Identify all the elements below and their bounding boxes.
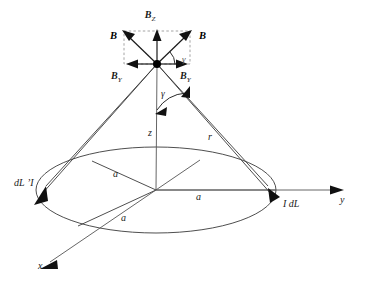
- x-axis-line: [50, 160, 200, 262]
- cone-line-right-inner: [157, 64, 268, 186]
- radius-line-lower-left: [78, 190, 156, 226]
- z-axis-label: z: [147, 127, 152, 138]
- radius-label-upper-left: a: [113, 168, 118, 179]
- radius-label-right: a: [196, 191, 201, 202]
- gamma-upper-arc: [170, 52, 175, 64]
- cone-line-right-r: [157, 64, 272, 195]
- cone-line-left-inner: [46, 64, 157, 186]
- by-left-label: BY: [110, 70, 123, 84]
- bz-label: BZ: [144, 9, 156, 23]
- r-line-label: r: [208, 131, 212, 142]
- b-right-label: B: [198, 30, 206, 41]
- b-left-vector-line: [128, 36, 157, 64]
- b-left-label: B: [109, 30, 117, 41]
- gamma-upper-label: γ: [182, 54, 186, 64]
- by-right-label: BY: [179, 70, 192, 84]
- radius-label-lower-left: a: [121, 212, 126, 223]
- x-axis-arrowhead: [40, 260, 58, 269]
- by-left-vector-arrowhead: [126, 60, 138, 69]
- y-axis-label: y: [339, 194, 345, 205]
- radius-line-upper-left: [92, 161, 156, 190]
- diagram-canvas: BZ B B BY BY γ γ z r a a a x y dL ’I I d…: [0, 0, 366, 294]
- x-axis-label: x: [37, 260, 43, 271]
- gamma-lower-label: γ: [161, 89, 165, 99]
- physics-diagram-figure: BZ B B BY BY γ γ z r a a a x y dL ’I I d…: [0, 0, 366, 294]
- field-point-dot: [153, 60, 161, 68]
- z-axis-line: [156, 64, 157, 190]
- i-dl-label: I dL: [282, 198, 300, 209]
- dl-prime-label: dL ’I: [14, 177, 34, 188]
